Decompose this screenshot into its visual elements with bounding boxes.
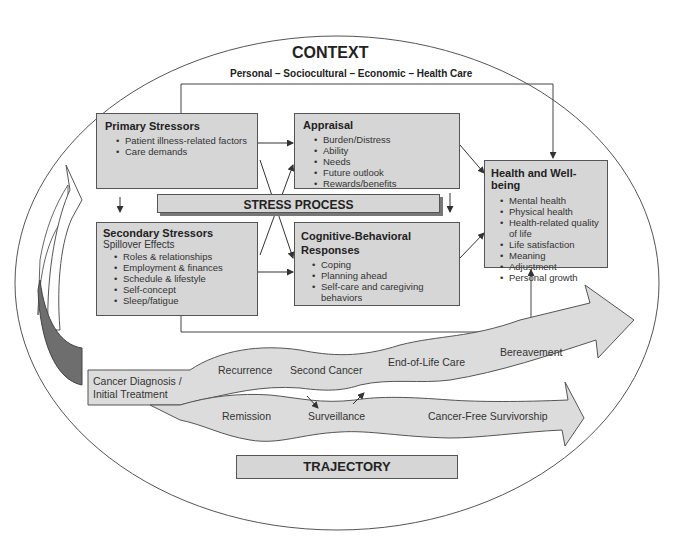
context-title: CONTEXT	[292, 44, 368, 62]
list-item: Patient illness-related factors	[125, 135, 249, 146]
list-item: Mental health	[509, 195, 601, 206]
list-item: Rewards/benefits	[323, 178, 451, 189]
list-item: Physical health	[509, 206, 601, 217]
trajectory-surveillance: Surveillance	[308, 410, 365, 422]
stress-process-label: STRESS PROCESS	[243, 198, 353, 212]
health-wellbeing-box: Health and Well-being Mental health Phys…	[484, 160, 608, 268]
list-item: Coping	[321, 259, 453, 270]
secondary-stressors-title: Secondary Stressors	[103, 227, 251, 239]
list-item: Future outlook	[323, 167, 451, 178]
list-item-continued: of life	[509, 228, 601, 239]
list-item: Self-care and caregiving behaviors	[321, 281, 453, 303]
list-item: Sleep/fatigue	[123, 295, 251, 306]
list-item: Employment & finances	[123, 262, 251, 273]
cognitive-behavioral-title-2: Responses	[301, 244, 453, 256]
cognitive-behavioral-box: Cognitive-Behavioral Responses Coping Pl…	[294, 222, 460, 306]
list-item: Schedule & lifestyle	[123, 273, 251, 284]
stress-process-bar: STRESS PROCESS	[157, 194, 440, 213]
trajectory-remission: Remission	[222, 410, 271, 422]
trajectory-end-of-life: End-of-Life Care	[388, 356, 465, 368]
health-wellbeing-title: Health and Well-being	[491, 167, 601, 191]
list-item: Self-concept	[123, 284, 251, 295]
list-item: Adjustment	[509, 261, 601, 272]
trajectory-second-cancer: Second Cancer	[290, 364, 362, 376]
list-item: Planning ahead	[321, 270, 453, 281]
primary-stressors-title: Primary Stressors	[105, 120, 249, 132]
list-item: Ability	[323, 145, 451, 156]
trajectory-cancer-free: Cancer-Free Survivorship	[428, 410, 548, 422]
appraisal-title: Appraisal	[303, 119, 451, 131]
cognitive-behavioral-title-1: Cognitive-Behavioral	[301, 230, 453, 242]
list-item: Care demands	[125, 146, 249, 157]
trajectory-start-line2: Initial Treatment	[93, 388, 168, 400]
secondary-stressors-subtitle: Spillover Effects	[103, 239, 251, 250]
list-item: Meaning	[509, 250, 601, 261]
primary-stressors-box: Primary Stressors Patient illness-relate…	[96, 113, 258, 189]
trajectory-start-line1: Cancer Diagnosis /	[93, 375, 182, 387]
list-item: Health-related quality	[509, 217, 601, 228]
dark-curved-arrow-icon	[38, 280, 82, 385]
list-item: Personal growth	[509, 272, 601, 283]
context-subtitle: Personal – Sociocultural – Economic – He…	[230, 68, 472, 79]
trajectory-bar: TRAJECTORY	[236, 455, 458, 479]
trajectory-bereavement: Bereavement	[500, 346, 562, 358]
list-item: Burden/Distress	[323, 134, 451, 145]
list-item: Life satisfaction	[509, 239, 601, 250]
trajectory-recurrence: Recurrence	[218, 364, 272, 376]
secondary-stressors-box: Secondary Stressors Spillover Effects Ro…	[96, 222, 258, 316]
list-item: Roles & relationships	[123, 251, 251, 262]
list-item: Needs	[323, 156, 451, 167]
appraisal-box: Appraisal Burden/Distress Ability Needs …	[294, 113, 460, 189]
trajectory-label: TRAJECTORY	[303, 459, 390, 474]
